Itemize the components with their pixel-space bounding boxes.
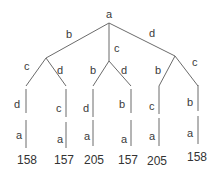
leaf-value-5: 205: [147, 154, 167, 168]
edge-label-c-d: d: [121, 64, 127, 76]
chain-6-label-1: b: [187, 96, 193, 108]
chain-1-label-2: a: [16, 129, 23, 141]
edge-label-b-c: c: [24, 60, 30, 72]
leaf-value-2: 157: [54, 153, 74, 167]
leaf-value-3: 205: [84, 153, 104, 167]
edge-label-c: c: [114, 42, 120, 54]
edge-label-d-b: b: [155, 64, 161, 76]
leaf-value-4: 157: [118, 153, 138, 167]
chain-3-label-1: d: [83, 102, 89, 114]
chain-3-label-2: a: [84, 130, 91, 142]
edge-label-d: d: [149, 27, 155, 39]
leaf-value-1: 158: [17, 153, 37, 167]
edge-label-b: b: [66, 28, 72, 40]
permutation-tree: a b c d c d b d b c d a 158 c a 157 d a …: [0, 0, 215, 171]
chain-5-label-1: c: [149, 100, 155, 112]
leaf-value-6: 158: [187, 150, 207, 164]
root-label: a: [106, 8, 113, 20]
chain-1-label-1: d: [14, 98, 20, 110]
chain-4-label-2: a: [121, 133, 128, 145]
chain-2-label-1: c: [56, 102, 62, 114]
edge-label-b-d: d: [57, 64, 63, 76]
edge-c-d: [109, 61, 131, 86]
edge-d-b: [159, 56, 175, 86]
chain-4-label-1: b: [119, 98, 125, 110]
chain-6-label-2: a: [187, 127, 194, 139]
chain-5-label-2: a: [149, 130, 156, 142]
edge-root-b: [46, 23, 109, 58]
chain-2-label-2: a: [57, 133, 64, 145]
edge-label-c-b: b: [90, 64, 96, 76]
edge-label-d-c: c: [192, 56, 198, 68]
